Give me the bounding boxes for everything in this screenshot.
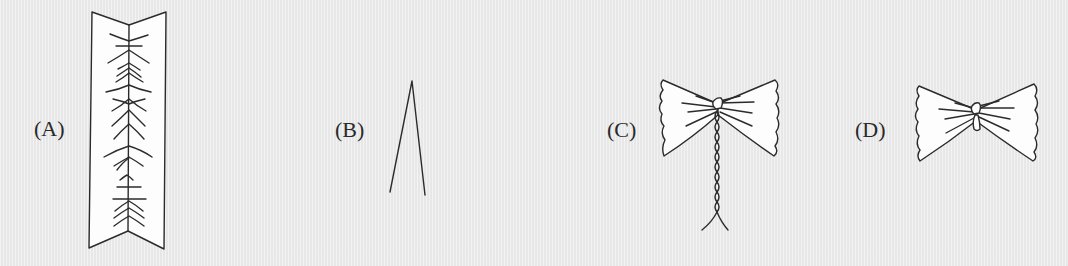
figure-a-folded-strip bbox=[89, 12, 166, 249]
diagram-canvas bbox=[0, 0, 1068, 266]
figure-d-bow-with-knot bbox=[916, 84, 1038, 161]
figure-b-inverted-v bbox=[390, 81, 425, 195]
figure-c-bow-with-tail bbox=[660, 80, 779, 230]
